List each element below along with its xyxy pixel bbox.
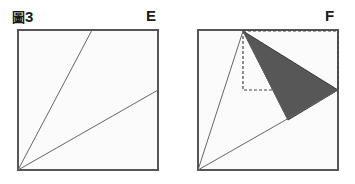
square-diagram-e-square-outline — [18, 30, 158, 170]
diagram-canvas — [0, 0, 355, 184]
geometry-figure: 圖3 E F — [0, 0, 355, 184]
square-diagram-e — [18, 30, 158, 170]
square-diagram-f — [198, 30, 338, 170]
